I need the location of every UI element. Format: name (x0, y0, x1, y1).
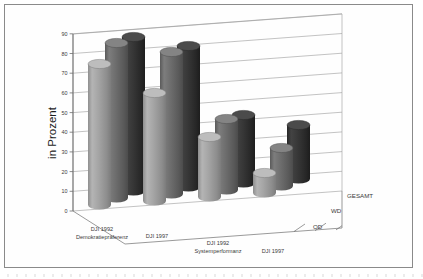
y-axis: 0 10 20 30 40 50 60 70 80 90 (62, 31, 74, 214)
y-tick-60: 60 (62, 90, 68, 96)
category-label-3-line2: Systemperformanz (195, 248, 242, 254)
y-tick-80: 80 (62, 51, 68, 57)
bar-c1-od[interactable] (88, 59, 111, 209)
y-tick-10: 10 (62, 188, 68, 194)
category-label-3-line1: DJI 1992 (207, 240, 229, 246)
bar-group-2 (143, 41, 200, 205)
scan-artifact-strip (0, 274, 423, 277)
bar-group-1 (88, 32, 145, 209)
bar-c2-od[interactable] (143, 88, 166, 205)
bar-group-3 (198, 110, 255, 201)
category-label-4-line1: DJI 1997 (262, 248, 284, 254)
depth-label-od: OD (313, 223, 323, 230)
bar-c4-od[interactable] (253, 168, 276, 197)
depth-label-gesamt: GESAMT (347, 192, 373, 199)
y-tick-70: 70 (62, 70, 68, 76)
chart-plot-area: 0 10 20 30 40 50 60 70 80 90 in Prozent (5, 5, 414, 269)
bar-c3-od[interactable] (198, 132, 221, 201)
bar-chart-3d: 0 10 20 30 40 50 60 70 80 90 in Prozent (5, 5, 414, 269)
figure-frame: 0 10 20 30 40 50 60 70 80 90 in Prozent (4, 4, 413, 268)
y-tick-30: 30 (62, 149, 68, 155)
y-tick-0: 0 (65, 208, 68, 214)
bar-group-4 (253, 120, 310, 197)
y-tick-20: 20 (62, 169, 68, 175)
category-label-1-line2: Demokratiepräferenz (76, 234, 128, 240)
category-label-2-line1: DJI 1997 (146, 233, 168, 239)
y-tick-90: 90 (62, 31, 68, 37)
y-tick-50: 50 (62, 110, 68, 116)
category-label-1-line1: DJI 1992 (91, 226, 113, 232)
y-axis-title: in Prozent (46, 106, 58, 159)
y-tick-40: 40 (62, 129, 68, 135)
depth-label-wd: WD (331, 207, 342, 214)
